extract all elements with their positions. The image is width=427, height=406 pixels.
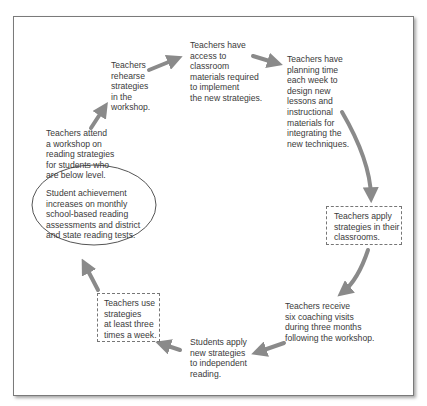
arrow-apply-to-coaching [343, 250, 368, 292]
step-planning-time: Teachers have planning time each week to… [287, 54, 349, 149]
arrow-coaching-to-students [258, 343, 284, 352]
arrow-attend-to-rehearse [91, 108, 104, 128]
step-coaching-visits: Teachers receive six coaching visits dur… [285, 301, 374, 343]
arrow-rehearse-to-access [149, 59, 176, 70]
step-students-apply: Students apply new strategies to indepen… [190, 337, 247, 379]
step-rehearse: Teachers rehearse strategies in the work… [111, 60, 150, 113]
arrow-use-to-outcome [85, 265, 98, 290]
step-student-achievement: Student achievement increases on monthly… [46, 188, 140, 241]
step-attend-workshop: Teachers attend a workshop on reading st… [46, 128, 114, 181]
step-access-materials: Teachers have access to classroom materi… [190, 40, 262, 104]
step-use-strategies: Teachers use strategies at least three t… [104, 298, 157, 340]
arrow-students-to-use [162, 344, 180, 350]
step-apply-strategies: Teachers apply strategies in their class… [334, 211, 399, 243]
